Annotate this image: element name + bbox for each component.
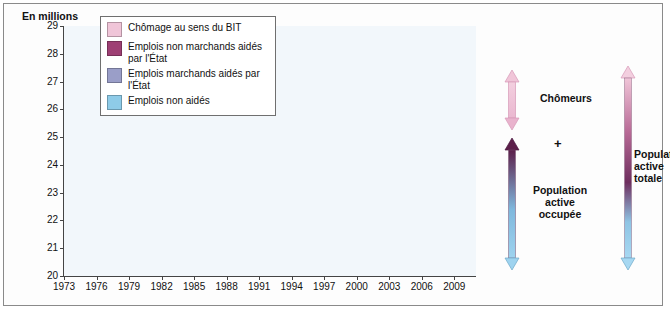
legend-swatch-emplois-marchands	[107, 68, 122, 83]
pao-line-3: occupée	[524, 208, 596, 220]
y-tick-label: 23	[28, 188, 58, 198]
y-tick	[60, 137, 64, 138]
y-axis-line	[63, 26, 64, 276]
y-tick-label: 25	[28, 132, 58, 142]
pao-line-1: Population	[524, 184, 596, 196]
x-tick	[227, 276, 228, 280]
annotation-population-active-occupee: Population active occupée	[524, 184, 596, 220]
legend-swatch-chomage	[107, 22, 122, 37]
y-tick	[60, 248, 64, 249]
x-tick	[97, 276, 98, 280]
x-tick-label: 1979	[113, 282, 145, 292]
y-tick	[60, 109, 64, 110]
legend-swatch-emplois-non-marchands	[107, 41, 122, 56]
pao-line-2: active	[524, 196, 596, 208]
legend-item-emplois-non-aides: Emplois non aidés	[107, 95, 269, 110]
x-tick	[324, 276, 325, 280]
y-tick-label: 24	[28, 160, 58, 170]
x-tick-label: 1973	[48, 282, 80, 292]
x-axis-line	[63, 276, 476, 277]
legend-swatch-emplois-non-aides	[107, 95, 122, 110]
legend-item-emplois-non-marchands: Emplois non marchands aidés par l'État	[107, 41, 269, 64]
y-tick	[60, 54, 64, 55]
y-tick	[60, 165, 64, 166]
y-tick-label: 20	[28, 271, 58, 281]
legend-label-emplois-non-aides: Emplois non aidés	[128, 95, 210, 107]
x-tick-label: 2006	[406, 282, 438, 292]
x-tick	[64, 276, 65, 280]
chomeurs-arrow-icon	[505, 70, 519, 130]
legend-item-chomage: Chômage au sens du BIT	[107, 22, 269, 37]
chart-legend: Chômage au sens du BIT Emplois non march…	[100, 16, 276, 116]
annotation-arrows: Chômeurs + Population active occupée Pop…	[482, 26, 664, 286]
x-tick	[454, 276, 455, 280]
chart-frame: En millions 20212223242526272829 1973197…	[3, 3, 663, 306]
legend-label-emplois-marchands: Emplois marchands aidés par l'État	[128, 68, 269, 91]
x-tick	[357, 276, 358, 280]
x-tick	[194, 276, 195, 280]
x-tick	[129, 276, 130, 280]
legend-label-emplois-non-marchands: Emplois non marchands aidés par l'État	[128, 41, 269, 64]
y-tick-label: 26	[28, 104, 58, 114]
x-tick-label: 1994	[276, 282, 308, 292]
legend-label-chomage: Chômage au sens du BIT	[128, 22, 241, 34]
x-tick	[422, 276, 423, 280]
y-tick-label: 28	[28, 49, 58, 59]
y-tick-label: 21	[28, 243, 58, 253]
x-tick-label: 2009	[438, 282, 470, 292]
x-tick-label: 1976	[81, 282, 113, 292]
x-tick-label: 2000	[341, 282, 373, 292]
x-tick	[162, 276, 163, 280]
x-tick	[259, 276, 260, 280]
x-tick	[292, 276, 293, 280]
x-tick-label: 1991	[243, 282, 275, 292]
x-tick-label: 2003	[373, 282, 405, 292]
y-tick-label: 29	[28, 21, 58, 31]
population-active-totale-arrow-icon	[621, 66, 635, 270]
y-tick	[60, 82, 64, 83]
x-tick-label: 1985	[178, 282, 210, 292]
y-tick	[60, 193, 64, 194]
x-tick-label: 1997	[308, 282, 340, 292]
x-tick-label: 1982	[146, 282, 178, 292]
x-tick-label: 1988	[211, 282, 243, 292]
annotation-chomeurs: Chômeurs	[526, 92, 606, 104]
y-tick-label: 27	[28, 77, 58, 87]
y-tick	[60, 26, 64, 27]
chart-screenshot: En millions 20212223242526272829 1973197…	[0, 0, 670, 311]
population-active-occupee-arrow-icon	[505, 138, 519, 270]
y-tick	[60, 220, 64, 221]
annotation-plus: +	[554, 136, 562, 151]
y-tick-label: 22	[28, 215, 58, 225]
x-tick	[389, 276, 390, 280]
legend-item-emplois-marchands: Emplois marchands aidés par l'État	[107, 68, 269, 91]
